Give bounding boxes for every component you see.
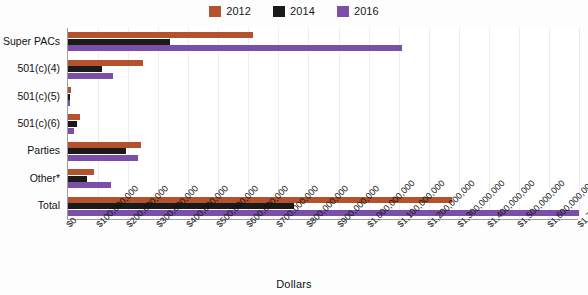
bar-2016: [68, 100, 70, 106]
category-label: 501(c)(6): [17, 118, 60, 129]
bar-2012: [68, 60, 143, 66]
category-axis-labels: Super PACs501(c)(4)501(c)(5)501(c)(6)Par…: [0, 28, 64, 220]
category-label: 501(c)(5): [17, 91, 60, 102]
bar-group: [68, 87, 578, 106]
legend-swatch-icon: [337, 6, 349, 17]
legend-label: 2016: [354, 6, 379, 17]
bar-2012: [68, 87, 71, 93]
bar-2014: [68, 94, 70, 100]
bar-2012: [68, 169, 94, 175]
bars-layer: [68, 28, 578, 219]
bar-2016: [68, 45, 402, 51]
bar-2016: [68, 182, 111, 188]
bar-2014: [68, 148, 126, 154]
bar-2014: [68, 176, 87, 182]
bar-chart: 201220142016 Super PACs501(c)(4)501(c)(5…: [0, 0, 588, 295]
legend-entry-2012: 2012: [209, 6, 251, 17]
x-axis-tick-labels: $0$100,000,000$200,000,000$300,000,000$4…: [0, 221, 588, 275]
chart-legend: 201220142016: [0, 2, 588, 20]
bar-2014: [68, 66, 102, 72]
legend-label: 2014: [290, 6, 315, 17]
bar-2012: [68, 32, 253, 38]
category-label: Parties: [27, 145, 60, 156]
bar-2014: [68, 39, 170, 45]
bar-group: [68, 142, 578, 161]
category-label: Total: [38, 200, 60, 211]
legend-swatch-icon: [273, 6, 285, 17]
bar-group: [68, 60, 578, 79]
category-label: Other*: [30, 173, 60, 184]
legend-entry-2016: 2016: [337, 6, 379, 17]
plot-area: [67, 28, 578, 220]
bar-2016: [68, 155, 138, 161]
legend-entry-2014: 2014: [273, 6, 315, 17]
bar-group: [68, 32, 578, 51]
legend-swatch-icon: [209, 6, 221, 17]
bar-2016: [68, 128, 74, 134]
bar-2014: [68, 121, 77, 127]
bar-2012: [68, 114, 80, 120]
bar-group: [68, 114, 578, 133]
bar-2012: [68, 142, 141, 148]
legend-label: 2012: [226, 6, 251, 17]
category-label: Super PACs: [3, 36, 60, 47]
x-axis-title: Dollars: [0, 278, 588, 290]
category-label: 501(c)(4): [17, 63, 60, 74]
bar-2016: [68, 73, 113, 79]
